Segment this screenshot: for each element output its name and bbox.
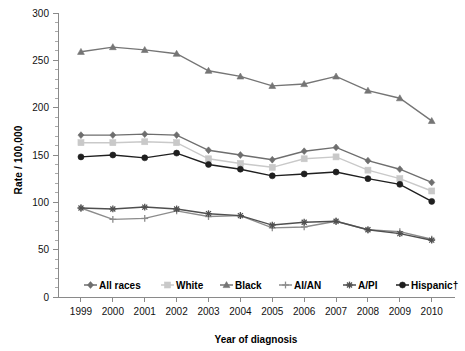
legend-swatch-marker bbox=[400, 282, 406, 288]
series-all-races bbox=[78, 131, 435, 186]
data-point bbox=[397, 181, 403, 187]
legend-swatch-marker bbox=[346, 282, 353, 289]
legend-label: AI/AN bbox=[294, 280, 321, 291]
data-point bbox=[301, 171, 307, 177]
data-point bbox=[269, 164, 275, 170]
x-tick-label: 2004 bbox=[229, 306, 252, 317]
x-tick-label: 2008 bbox=[357, 306, 380, 317]
legend-item-hispanic-[interactable]: Hispanic† bbox=[396, 280, 458, 291]
data-point bbox=[333, 218, 340, 225]
data-point bbox=[78, 154, 84, 160]
x-tick-label: 2005 bbox=[261, 306, 284, 317]
data-point bbox=[237, 212, 244, 219]
data-point bbox=[429, 188, 435, 194]
y-tick-label: 300 bbox=[32, 8, 49, 19]
data-point bbox=[333, 154, 339, 160]
x-tick-label: 1999 bbox=[70, 306, 93, 317]
legend-item-black[interactable]: Black bbox=[220, 280, 262, 291]
data-point bbox=[205, 210, 212, 217]
data-point bbox=[333, 144, 339, 151]
series-layer bbox=[78, 44, 436, 244]
data-point bbox=[269, 222, 276, 229]
data-point bbox=[142, 155, 148, 161]
data-point bbox=[428, 237, 435, 244]
data-point bbox=[78, 205, 85, 212]
data-point bbox=[333, 73, 340, 79]
data-point bbox=[109, 206, 116, 213]
data-point bbox=[269, 173, 275, 179]
data-point bbox=[429, 198, 435, 204]
series-path bbox=[81, 207, 432, 240]
data-point bbox=[237, 161, 243, 167]
series-path bbox=[81, 47, 432, 121]
series-path bbox=[81, 153, 432, 201]
data-point bbox=[365, 226, 372, 233]
series-path bbox=[81, 142, 432, 191]
data-point bbox=[237, 152, 243, 159]
series-hispanic- bbox=[78, 150, 435, 204]
data-point bbox=[333, 169, 339, 175]
data-point bbox=[237, 166, 243, 172]
data-point bbox=[109, 216, 116, 223]
x-tick-label: 2001 bbox=[134, 306, 157, 317]
data-point bbox=[174, 140, 180, 146]
data-point bbox=[78, 140, 84, 146]
chart-legend: All racesWhiteBlackAI/ANA/PIHispanic† bbox=[84, 280, 458, 291]
series-path bbox=[81, 208, 432, 239]
data-point bbox=[206, 161, 212, 167]
y-tick-label: 100 bbox=[32, 197, 49, 208]
x-tick-label: 2006 bbox=[293, 306, 316, 317]
chart-canvas: Rate / 100,000 050100150200250300 199920… bbox=[0, 0, 465, 351]
y-axis-ticks: 050100150200250300 bbox=[32, 8, 58, 303]
x-axis-ticks: 1999200020012002200320042005200620072008… bbox=[70, 297, 443, 317]
data-point bbox=[78, 132, 84, 139]
data-point bbox=[397, 176, 403, 182]
series-black bbox=[78, 44, 436, 124]
data-point bbox=[365, 167, 371, 173]
data-point bbox=[206, 156, 212, 162]
y-tick-label: 250 bbox=[32, 55, 49, 66]
legend-item-a-pi[interactable]: A/PI bbox=[343, 280, 378, 291]
legend-label: Hispanic† bbox=[411, 280, 458, 291]
data-point bbox=[269, 156, 275, 163]
data-point bbox=[142, 131, 148, 138]
data-point bbox=[365, 176, 371, 182]
x-tick-label: 2010 bbox=[421, 306, 444, 317]
series-ai-an bbox=[78, 205, 436, 243]
data-point bbox=[142, 139, 148, 145]
data-point bbox=[301, 156, 307, 162]
legend-label: White bbox=[176, 280, 204, 291]
series-a-pi bbox=[78, 204, 436, 244]
x-tick-label: 2009 bbox=[389, 306, 412, 317]
legend-label: Black bbox=[235, 280, 262, 291]
data-point bbox=[141, 215, 148, 222]
y-axis-title: Rate / 100,000 bbox=[13, 125, 24, 194]
data-point bbox=[206, 147, 212, 154]
x-tick-label: 2000 bbox=[102, 306, 125, 317]
x-axis-title-text: Year of diagnosis bbox=[215, 334, 298, 345]
data-point bbox=[173, 206, 180, 213]
y-tick-label: 200 bbox=[32, 102, 49, 113]
x-tick-label: 2002 bbox=[165, 306, 188, 317]
data-point bbox=[110, 140, 116, 146]
data-point bbox=[397, 166, 403, 173]
x-tick-label: 2007 bbox=[325, 306, 348, 317]
line-chart: Rate / 100,000 050100150200250300 199920… bbox=[0, 0, 465, 351]
y-tick-label: 0 bbox=[43, 292, 49, 303]
y-tick-label: 150 bbox=[32, 150, 49, 161]
x-tick-label: 2003 bbox=[197, 306, 220, 317]
legend-swatch-marker bbox=[165, 282, 171, 288]
data-point bbox=[301, 148, 307, 155]
data-point bbox=[141, 204, 148, 211]
y-tick-label: 50 bbox=[38, 244, 50, 255]
data-point bbox=[110, 132, 116, 139]
legend-swatch-marker bbox=[88, 282, 94, 289]
data-point bbox=[174, 150, 180, 156]
y-axis-title-text: Rate / 100,000 bbox=[13, 125, 24, 194]
legend-label: All races bbox=[99, 280, 141, 291]
legend-item-ai-an[interactable]: AI/AN bbox=[279, 280, 321, 291]
legend-item-white[interactable]: White bbox=[161, 280, 204, 291]
data-point bbox=[396, 230, 403, 237]
legend-item-all-races[interactable]: All races bbox=[84, 280, 141, 291]
data-point bbox=[174, 132, 180, 139]
